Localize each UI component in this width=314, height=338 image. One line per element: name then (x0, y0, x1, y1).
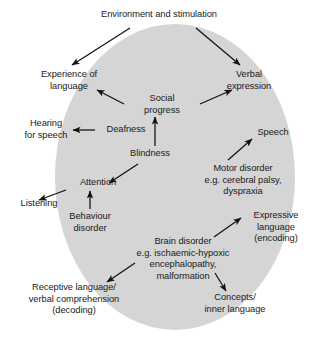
node-blindness: Blindness (117, 148, 183, 160)
node-motor-disorder: Motor disorder e.g. cerebral palsy, dysp… (183, 163, 303, 198)
node-verbal-expression: Verbal expression (203, 69, 295, 92)
node-social-progress: Social progress (127, 93, 197, 116)
node-speech: Speech (243, 127, 303, 139)
node-expressive-language-encoding: Expressive language (encoding) (239, 210, 313, 245)
node-experience-of-language: Experience of language (16, 69, 122, 92)
node-listening: Listening (8, 198, 70, 210)
node-receptive-language-decoding: Receptive language/ verbal comprehension… (6, 282, 142, 317)
node-brain-disorder: Brain disorder e.g. ischaemic-hypoxic en… (121, 236, 245, 282)
node-attention: Attention (65, 177, 131, 189)
node-behaviour-disorder: Behaviour disorder (53, 211, 127, 234)
diagram-figure: Environment and stimulation Experience o… (0, 0, 314, 338)
node-environment-and-stimulation: Environment and stimulation (66, 9, 252, 21)
node-concepts-inner-language: Concepts/ inner language (186, 292, 284, 315)
node-hearing-for-speech: Hearing for speech (10, 118, 82, 141)
node-deafness: Deafness (97, 124, 155, 136)
